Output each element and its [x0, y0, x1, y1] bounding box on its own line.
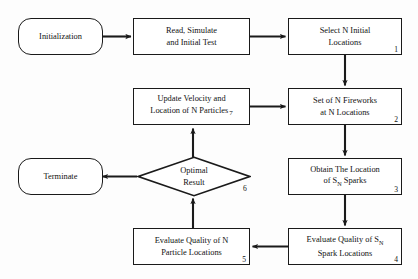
node-set-fireworks-number: 2: [394, 115, 398, 124]
node-evaluate-particle-quality-number: 5: [242, 255, 246, 264]
node-set-fireworks[interactable]: Set of N Fireworks at N Locations 2: [288, 88, 402, 125]
node-initialization[interactable]: Initialization: [18, 18, 103, 55]
node-read-simulate-label: Read, Simulate and Initial Test: [162, 25, 221, 48]
node-select-initial-locations-number: 1: [394, 45, 398, 54]
node-read-simulate[interactable]: Read, Simulate and Initial Test: [133, 18, 250, 55]
node-evaluate-spark-quality[interactable]: Evaluate Quality of SNSpark Locations 4: [288, 228, 402, 265]
node-obtain-location-line1: Obtain The Location: [310, 165, 380, 174]
node-update-velocity-line1: Update Velocity and: [157, 94, 225, 103]
node-obtain-location-line2-pre: of S: [323, 176, 337, 185]
node-optimal-result[interactable]: Optimal Result: [137, 156, 251, 197]
node-update-velocity-label: Update Velocity andLocation of N Particl…: [146, 93, 236, 119]
node-evaluate-spark-quality-subscript: N: [379, 238, 383, 245]
node-obtain-location-number: 3: [394, 185, 398, 194]
node-evaluate-spark-quality-label: Evaluate Quality of SNSpark Locations: [303, 234, 388, 259]
node-update-velocity[interactable]: Update Velocity andLocation of N Particl…: [133, 88, 250, 125]
node-obtain-location[interactable]: Obtain The Locationof SN Sparks 3: [288, 158, 402, 195]
node-initialization-label: Initialization: [35, 31, 86, 42]
node-optimal-result-label: Optimal Result: [137, 156, 251, 197]
node-select-initial-locations-label: Select N Initial Locations: [316, 25, 375, 48]
node-select-initial-locations[interactable]: Select N Initial Locations 1: [288, 18, 402, 55]
node-evaluate-particle-quality-label: Evaluate Quality of N Particle Locations: [151, 235, 233, 258]
node-evaluate-particle-quality[interactable]: Evaluate Quality of N Particle Locations…: [133, 228, 250, 265]
node-obtain-location-line2-post: Sparks: [342, 176, 367, 185]
node-evaluate-spark-quality-line2: Spark Locations: [318, 249, 373, 258]
node-terminate-label: Terminate: [40, 171, 82, 182]
node-set-fireworks-label: Set of N Fireworks at N Locations: [309, 95, 381, 118]
node-update-velocity-line2: Location of N Particles: [150, 106, 228, 115]
node-obtain-location-label: Obtain The Locationof SN Sparks: [306, 164, 384, 189]
flowchart-canvas: Initialization Read, Simulate and Initia…: [0, 0, 418, 279]
node-update-velocity-number: 7: [228, 109, 233, 117]
node-evaluate-spark-quality-number: 4: [394, 255, 398, 264]
node-terminate[interactable]: Terminate: [18, 158, 103, 195]
node-evaluate-spark-quality-line1-pre: Evaluate Quality of S: [307, 235, 379, 244]
node-optimal-result-number: 6: [243, 184, 247, 193]
